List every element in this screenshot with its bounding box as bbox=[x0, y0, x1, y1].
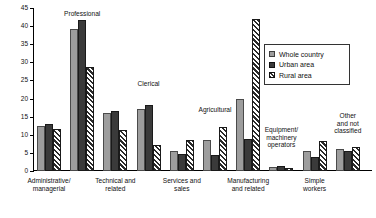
bar-group bbox=[137, 8, 161, 171]
y-axis-tick-label: 25 bbox=[21, 77, 28, 84]
y-axis-tick-label: 40 bbox=[21, 23, 28, 30]
y-axis-tick-label: 5 bbox=[24, 150, 28, 157]
bar bbox=[344, 151, 352, 171]
bar-group bbox=[336, 8, 360, 171]
x-axis-tick-label: Manufacturing and related bbox=[217, 177, 279, 193]
bar bbox=[78, 20, 86, 171]
legend-item: Urban area bbox=[269, 60, 345, 69]
bar bbox=[219, 127, 227, 171]
bar bbox=[352, 147, 360, 171]
bar bbox=[311, 157, 319, 171]
y-axis-tick bbox=[30, 171, 34, 172]
bar bbox=[111, 111, 119, 171]
plot-area: ProfessionalClericalAgriculturalEquipmen… bbox=[34, 8, 372, 171]
y-axis: 051015202530354045 bbox=[0, 0, 34, 179]
bar bbox=[252, 19, 260, 171]
bar bbox=[153, 145, 161, 171]
bar bbox=[269, 167, 277, 171]
x-axis-tick-label: Technical and related bbox=[84, 177, 146, 193]
legend-item: Whole country bbox=[269, 50, 345, 59]
bar bbox=[303, 151, 311, 171]
bar bbox=[53, 129, 61, 171]
y-axis-tick-label: 0 bbox=[24, 168, 28, 175]
bar-group bbox=[103, 8, 127, 171]
bar-group bbox=[70, 8, 94, 171]
bar bbox=[277, 166, 285, 171]
bar-group bbox=[37, 8, 61, 171]
legend-swatch-rural-area-icon bbox=[269, 72, 275, 78]
bar-group bbox=[170, 8, 194, 171]
bar bbox=[170, 151, 178, 171]
legend-label-whole-country: Whole country bbox=[279, 51, 324, 58]
bar bbox=[178, 154, 186, 171]
bar bbox=[145, 105, 153, 171]
x-axis-tick-label: Services and sales bbox=[151, 177, 213, 193]
bar bbox=[137, 109, 145, 171]
y-axis-tick-label: 35 bbox=[21, 41, 28, 48]
bar bbox=[236, 99, 244, 171]
bar bbox=[244, 139, 252, 171]
legend-swatch-urban-area-icon bbox=[269, 62, 275, 68]
bar-group bbox=[203, 8, 227, 171]
y-axis-tick-label: 45 bbox=[21, 5, 28, 12]
x-axis-tick-label: Administrative/ managerial bbox=[18, 177, 80, 193]
y-axis-tick-label: 30 bbox=[21, 59, 28, 66]
bar bbox=[211, 155, 219, 171]
bar bbox=[319, 141, 327, 171]
bar bbox=[37, 126, 45, 171]
legend: Whole country Urban area Rural area bbox=[264, 44, 350, 85]
bar-group bbox=[303, 8, 327, 171]
bar bbox=[203, 140, 211, 172]
bar bbox=[45, 124, 53, 171]
bar-group bbox=[269, 8, 293, 171]
bar bbox=[186, 140, 194, 172]
bar bbox=[285, 168, 293, 171]
bar bbox=[336, 149, 344, 171]
legend-item: Rural area bbox=[269, 71, 345, 80]
bar bbox=[70, 29, 78, 171]
bar-chart: 051015202530354045 ProfessionalClericalA… bbox=[0, 0, 376, 218]
y-axis-tick-label: 15 bbox=[21, 113, 28, 120]
legend-label-urban-area: Urban area bbox=[279, 61, 314, 68]
legend-label-rural-area: Rural area bbox=[279, 72, 312, 79]
legend-swatch-whole-country-icon bbox=[269, 51, 275, 57]
bar-group bbox=[236, 8, 260, 171]
x-axis-tick-label: Simple workers bbox=[284, 177, 346, 193]
bar bbox=[119, 130, 127, 171]
bar bbox=[86, 67, 94, 171]
y-axis-tick-label: 20 bbox=[21, 95, 28, 102]
y-axis-tick-label: 10 bbox=[21, 132, 28, 139]
bar bbox=[103, 113, 111, 171]
